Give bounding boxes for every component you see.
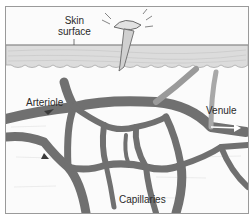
label-skin-line2: surface [58, 26, 91, 37]
label-capillaries: Capillaries [119, 194, 166, 205]
capillary-network [6, 69, 248, 213]
label-skin-surface: Skin surface [58, 15, 91, 37]
label-venule: Venule [206, 105, 237, 116]
illustration-frame: Skin surface Arteriole Venule Capillarie… [5, 6, 249, 214]
label-skin-line1: Skin [58, 15, 91, 26]
flow-arrow [211, 127, 238, 128]
label-arteriole: Arteriole [26, 97, 63, 108]
